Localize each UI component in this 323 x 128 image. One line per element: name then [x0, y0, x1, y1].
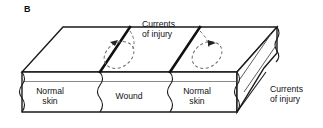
label-normal-skin-left-line1: Normal — [36, 86, 64, 96]
annotation-currents-right-line2: of injury — [270, 94, 323, 104]
label-normal-skin-right-line1: Normal — [183, 86, 211, 96]
annotation-currents-top-line1: Currents — [142, 19, 175, 29]
annotation-currents-right-line1: Currents — [270, 84, 303, 94]
label-normal-skin-right: Normal skin — [168, 86, 226, 106]
panel-label-b: B — [24, 4, 31, 15]
label-normal-skin-right-line2: skin — [168, 96, 226, 106]
label-normal-skin-left-line2: skin — [24, 96, 76, 106]
annotation-currents-of-injury-top: Currents of injury — [142, 19, 194, 39]
label-wound-text: Wound — [115, 91, 142, 101]
label-normal-skin-left: Normal skin — [24, 86, 76, 106]
annotation-currents-top-line2: of injury — [142, 29, 194, 39]
figure-root: B Normal skin Wound Normal skin Currents… — [0, 0, 323, 128]
annotation-currents-of-injury-right: Currents of injury — [270, 84, 323, 104]
label-wound: Wound — [101, 91, 157, 101]
